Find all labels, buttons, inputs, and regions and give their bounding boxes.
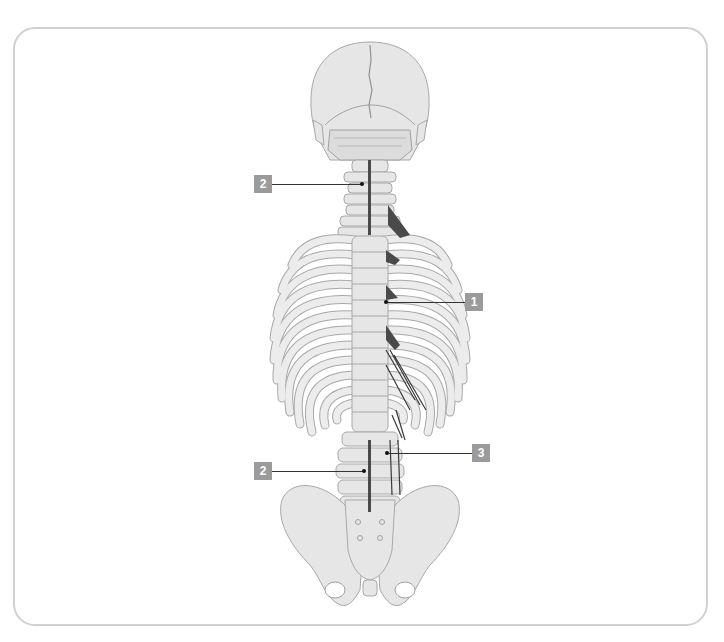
leader-line-1 xyxy=(386,302,465,303)
leader-endpoint xyxy=(362,469,366,473)
leader-line-2-top xyxy=(272,184,362,185)
leader-endpoint xyxy=(384,300,388,304)
callout-label-1: 1 xyxy=(465,293,483,311)
callout-label-2-top: 2 xyxy=(254,175,272,193)
callout-label-3: 3 xyxy=(472,444,490,462)
leader-endpoint xyxy=(360,182,364,186)
skeleton-illustration: .bone { fill: #e6e6e6; stroke: #a8a8a8; … xyxy=(0,0,724,642)
leader-endpoint xyxy=(385,451,389,455)
skull xyxy=(311,42,429,160)
leader-line-3 xyxy=(387,453,472,454)
callout-label-2-bottom: 2 xyxy=(254,462,272,480)
leader-line-2-bottom xyxy=(272,471,364,472)
